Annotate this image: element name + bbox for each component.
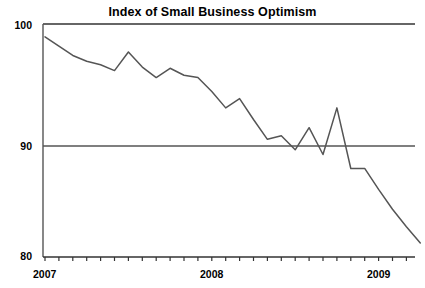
- plot-area: [0, 0, 425, 288]
- axis-lines: [43, 24, 415, 257]
- data-series-line: [45, 37, 420, 243]
- chart-container: Index of Small Business Optimism 100 90 …: [0, 0, 425, 288]
